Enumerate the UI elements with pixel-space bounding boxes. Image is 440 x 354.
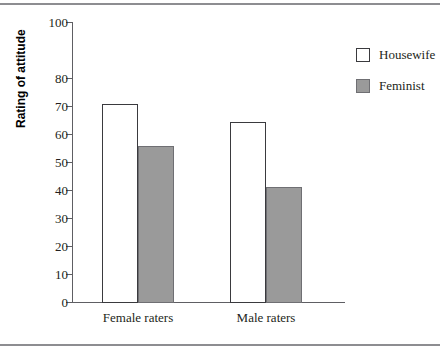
legend-swatch-housewife	[356, 48, 370, 62]
chart-legend: HousewifeFeminist	[356, 48, 435, 110]
bottom-rule	[0, 344, 440, 346]
y-tick-label: 100	[49, 16, 69, 29]
category-label-female-raters: Female raters	[103, 310, 173, 326]
y-tick-label: 10	[55, 268, 68, 281]
legend-label: Housewife	[379, 47, 435, 63]
y-tick-label: 0	[62, 296, 69, 309]
y-tick-label: 40	[55, 184, 68, 197]
y-tick-label: 60	[55, 128, 68, 141]
bar-male-raters-feminist	[266, 187, 302, 303]
category-label-male-raters: Male raters	[237, 310, 296, 326]
y-tick-label: 80	[55, 72, 68, 85]
legend-swatch-feminist	[356, 79, 370, 93]
legend-item-housewife: Housewife	[356, 48, 435, 62]
y-tick-label: 70	[55, 100, 68, 113]
figure: Rating of attitude 10080706050403020100 …	[0, 0, 440, 354]
bar-female-raters-housewife	[102, 104, 138, 303]
y-tick-label: 50	[55, 156, 68, 169]
y-axis-title: Rating of attitude	[14, 110, 28, 128]
y-tick-label: 30	[55, 212, 68, 225]
bar-male-raters-housewife	[230, 122, 266, 303]
legend-label: Feminist	[379, 78, 425, 94]
y-tick-label: 20	[55, 240, 68, 253]
y-axis-line	[72, 22, 73, 303]
bar-female-raters-feminist	[138, 146, 174, 303]
legend-item-feminist: Feminist	[356, 79, 435, 93]
top-rule	[0, 3, 440, 5]
plot-area: 10080706050403020100 Female ratersMale r…	[72, 22, 345, 303]
